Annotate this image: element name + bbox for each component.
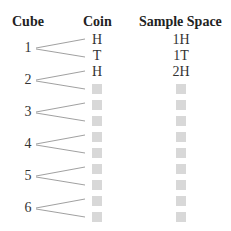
blank-box	[92, 164, 102, 174]
coin-blank	[88, 208, 106, 224]
sample-blank	[168, 96, 194, 112]
blank-box	[176, 212, 186, 222]
blank-box	[176, 164, 186, 174]
sample-3: 2H	[168, 64, 194, 80]
tree-branches	[0, 0, 231, 231]
sample-blank	[168, 112, 194, 128]
blank-box	[92, 84, 102, 94]
coin-2: T	[88, 48, 106, 64]
blank-box	[176, 196, 186, 206]
blank-box	[92, 148, 102, 158]
coin-blank	[88, 192, 106, 208]
coin-blank	[88, 160, 106, 176]
blank-box	[176, 132, 186, 142]
blank-box	[92, 180, 102, 190]
cube-2: 2	[22, 72, 34, 88]
blank-box	[92, 212, 102, 222]
sample-blank	[168, 176, 194, 192]
coin-blank	[88, 128, 106, 144]
coin-blank	[88, 80, 106, 96]
sample-blank	[168, 160, 194, 176]
blank-box	[92, 196, 102, 206]
cube-5: 5	[22, 168, 34, 184]
blank-box	[176, 116, 186, 126]
sample-2: 1T	[168, 48, 194, 64]
coin-3: H	[88, 64, 106, 80]
sample-blank	[168, 144, 194, 160]
cube-3: 3	[22, 104, 34, 120]
sample-blank	[168, 208, 194, 224]
blank-box	[92, 132, 102, 142]
cube-1: 1	[22, 40, 34, 56]
blank-box	[176, 180, 186, 190]
blank-box	[92, 116, 102, 126]
sample-1: 1H	[168, 32, 194, 48]
sample-blank	[168, 80, 194, 96]
blank-box	[176, 84, 186, 94]
sample-blank	[168, 128, 194, 144]
cube-4: 4	[22, 136, 34, 152]
coin-blank	[88, 144, 106, 160]
coin-1: H	[88, 32, 106, 48]
coin-blank	[88, 112, 106, 128]
coin-blank	[88, 96, 106, 112]
coin-blank	[88, 176, 106, 192]
blank-box	[176, 148, 186, 158]
sample-blank	[168, 192, 194, 208]
cube-6: 6	[22, 200, 34, 216]
blank-box	[92, 100, 102, 110]
blank-box	[176, 100, 186, 110]
